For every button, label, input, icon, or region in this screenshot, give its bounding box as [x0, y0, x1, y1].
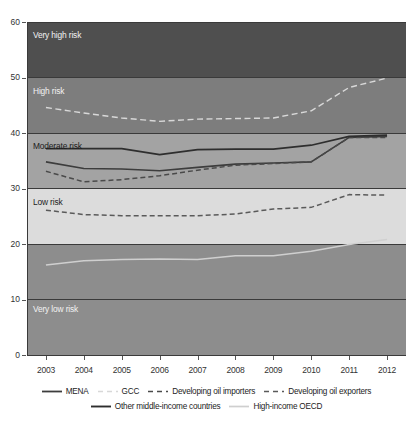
y-tick-label-50: 50 [0, 73, 20, 82]
x-tick-mark-2003 [46, 356, 47, 360]
x-tick-label-2006: 2006 [145, 365, 175, 375]
x-tick-label-2004: 2004 [69, 365, 99, 375]
y-tick-label-60: 60 [0, 18, 20, 27]
x-tick-mark-2011 [349, 356, 350, 360]
x-tick-mark-2007 [198, 356, 199, 360]
plot-area [27, 22, 406, 355]
chart-figure: 0102030405060 Very high riskHigh riskMod… [0, 0, 413, 430]
x-tick-mark-2004 [84, 356, 85, 360]
x-tick-mark-2009 [273, 356, 274, 360]
legend-row-1: Other middle-income countriesHigh-income… [0, 399, 413, 414]
plot-svg [27, 22, 406, 355]
x-tick-label-2007: 2007 [183, 365, 213, 375]
y-tick-mark-60 [22, 22, 26, 23]
legend-item-gcc[interactable]: GCC [98, 387, 140, 396]
x-tick-label-2012: 2012 [372, 365, 402, 375]
x-tick-label-2005: 2005 [107, 365, 137, 375]
legend-label: GCC [122, 387, 140, 396]
risk-band-2 [27, 133, 406, 189]
x-axis: 2003200420052006200720082009201020112012 [0, 356, 413, 378]
x-tick-label-2011: 2011 [334, 365, 364, 375]
bottom-caption-fragment [8, 421, 408, 429]
x-tick-mark-2008 [235, 356, 236, 360]
legend-item-developing-oil-importers[interactable]: Developing oil importers [148, 387, 255, 396]
x-tick-label-2009: 2009 [258, 365, 288, 375]
chart-legend: MENAGCCDeveloping oil importersDevelopin… [0, 384, 413, 420]
legend-item-developing-oil-exporters[interactable]: Developing oil exporters [264, 387, 371, 396]
risk-band-3 [27, 189, 406, 245]
x-tick-mark-2005 [122, 356, 123, 360]
y-tick-mark-20 [22, 244, 26, 245]
x-tick-mark-2010 [311, 356, 312, 360]
y-tick-label-10: 10 [0, 295, 20, 304]
legend-label: MENA [66, 387, 89, 396]
legend-label: High-income OECD [253, 402, 322, 411]
legend-item-other-middle-income-countries[interactable]: Other middle-income countries [91, 402, 221, 411]
legend-swatch-developing-oil-exporters [264, 387, 284, 396]
y-tick-mark-50 [22, 78, 26, 79]
x-tick-label-2003: 2003 [31, 365, 61, 375]
legend-label: Developing oil importers [172, 387, 255, 396]
legend-item-mena[interactable]: MENA [42, 387, 89, 396]
legend-swatch-high-income-oecd [229, 402, 249, 411]
y-tick-mark-40 [22, 133, 26, 134]
legend-swatch-gcc [98, 387, 118, 396]
legend-label: Other middle-income countries [115, 402, 221, 411]
legend-item-high-income-oecd[interactable]: High-income OECD [229, 402, 322, 411]
legend-row-0: MENAGCCDeveloping oil importersDevelopin… [0, 384, 413, 399]
risk-band-0 [27, 22, 406, 78]
legend-label: Developing oil exporters [288, 387, 371, 396]
y-tick-label-30: 30 [0, 184, 20, 193]
x-tick-label-2008: 2008 [220, 365, 250, 375]
legend-swatch-other-middle-income-countries [91, 402, 111, 411]
y-tick-label-20: 20 [0, 240, 20, 249]
x-tick-mark-2012 [387, 356, 388, 360]
legend-swatch-mena [42, 387, 62, 396]
risk-band-1 [27, 78, 406, 134]
y-tick-mark-30 [22, 189, 26, 190]
x-tick-label-2010: 2010 [296, 365, 326, 375]
y-tick-label-40: 40 [0, 129, 20, 138]
y-tick-mark-10 [22, 300, 26, 301]
x-tick-mark-2006 [160, 356, 161, 360]
legend-swatch-developing-oil-importers [148, 387, 168, 396]
